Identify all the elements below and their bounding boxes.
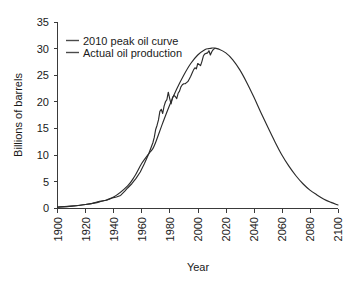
y-tick-label: 35 xyxy=(37,16,49,28)
x-axis-title: Year xyxy=(187,261,210,273)
y-tick-label: 0 xyxy=(43,202,49,214)
y-tick-labels: 35 30 25 20 15 10 5 0 xyxy=(37,16,49,214)
x-tick-label: 2060 xyxy=(276,217,288,241)
y-tick-marks xyxy=(54,22,58,208)
x-tick-label: 2080 xyxy=(304,217,316,241)
chart-legend: 2010 peak oil curve Actual oil productio… xyxy=(66,35,182,59)
y-axis-title: Billions of barrels xyxy=(12,73,24,157)
series-actual-production xyxy=(58,49,215,208)
x-tick-label: 1940 xyxy=(108,217,120,241)
x-tick-label: 2020 xyxy=(220,217,232,241)
x-tick-label: 2100 xyxy=(332,217,344,241)
x-tick-label: 2040 xyxy=(248,217,260,241)
series-peak-oil-curve xyxy=(58,48,339,207)
chart-canvas: 35 30 25 20 15 10 5 0 1900 1920 1940 196… xyxy=(0,0,361,282)
y-tick-label: 20 xyxy=(37,96,49,108)
x-tick-labels: 1900 1920 1940 1960 1980 2000 2020 2040 … xyxy=(52,217,345,241)
x-tick-label: 2000 xyxy=(192,217,204,241)
x-tick-label: 1980 xyxy=(164,217,176,241)
y-tick-label: 25 xyxy=(37,69,49,81)
peak-oil-chart: 35 30 25 20 15 10 5 0 1900 1920 1940 196… xyxy=(0,0,361,282)
x-tick-label: 1920 xyxy=(80,217,92,241)
y-tick-label: 15 xyxy=(37,122,49,134)
x-tick-marks xyxy=(58,209,339,213)
y-tick-label: 10 xyxy=(37,149,49,161)
x-tick-label: 1960 xyxy=(136,217,148,241)
legend-label-peak-oil-curve: 2010 peak oil curve xyxy=(83,35,178,47)
x-tick-label: 1900 xyxy=(52,217,64,241)
y-tick-label: 5 xyxy=(43,176,49,188)
y-tick-label: 30 xyxy=(37,43,49,55)
legend-label-actual-production: Actual oil production xyxy=(83,47,182,59)
